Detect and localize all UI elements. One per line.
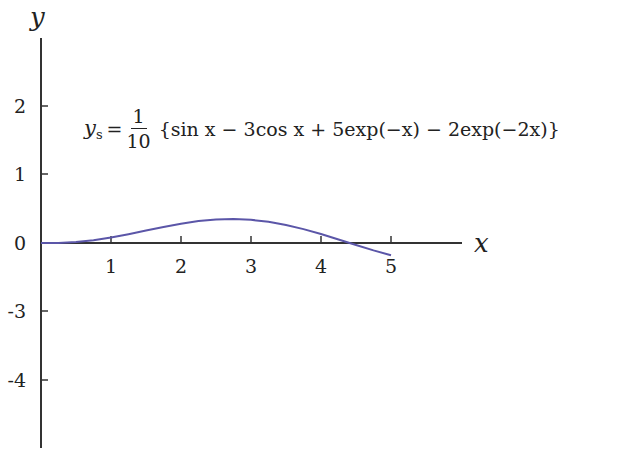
plot-area: 12345 210-3-4 y x <box>0 0 622 464</box>
y-tick-label: -3 <box>7 300 26 322</box>
formula-body: {sin x − 3cos x + 5exp(−x) − 2exp(−2x)} <box>159 118 560 140</box>
y-tick-label: 1 <box>14 163 26 185</box>
x-axis-label: x <box>474 228 489 258</box>
x-tick-label: 2 <box>175 255 187 277</box>
x-tick-label: 4 <box>315 255 327 277</box>
formula-lhs: ys <box>84 116 103 142</box>
y-axis-label: y <box>29 2 45 32</box>
y-tick-label: 0 <box>14 232 26 254</box>
formula-equals: = <box>107 118 123 140</box>
y-tick-label: 2 <box>14 95 26 117</box>
y-tick-label: -4 <box>7 369 26 391</box>
x-tick-label: 1 <box>105 255 117 277</box>
curve-ys <box>41 219 391 255</box>
formula-annotation: ys = 1 10 {sin x − 3cos x + 5exp(−x) − 2… <box>84 107 560 151</box>
formula-fraction: 1 10 <box>126 107 150 151</box>
x-tick-label: 5 <box>385 255 397 277</box>
x-tick-label: 3 <box>245 255 257 277</box>
